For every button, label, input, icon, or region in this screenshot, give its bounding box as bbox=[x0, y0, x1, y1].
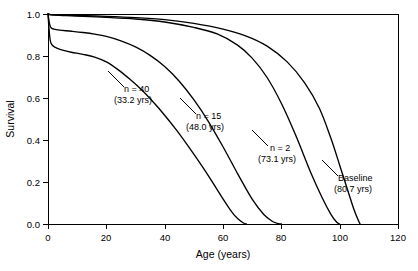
annot-n40-line1: n = 40 bbox=[124, 84, 149, 94]
curve-n15 bbox=[48, 14, 281, 224]
x-axis-title: Age (years) bbox=[196, 248, 250, 260]
x-tick-label-6: 120 bbox=[390, 232, 406, 243]
y-tick-label-2: 0.4 bbox=[27, 135, 40, 146]
x-tick-label-5: 100 bbox=[332, 232, 348, 243]
annot-baseline-line1: Baseline bbox=[338, 173, 373, 183]
annot-baseline: Baseline (80.7 yrs) bbox=[334, 173, 373, 194]
x-axis-ticks bbox=[48, 224, 398, 229]
x-tick-label-0: 0 bbox=[45, 232, 50, 243]
annot-n2-line1: n = 2 bbox=[270, 143, 290, 153]
annot-n2-line2: (73.1 yrs) bbox=[258, 154, 296, 164]
leader-n2 bbox=[252, 130, 268, 146]
annot-n40-line2: (33.2 yrs) bbox=[114, 95, 152, 105]
x-tick-label-2: 40 bbox=[160, 232, 171, 243]
curve-n2 bbox=[48, 14, 340, 224]
y-tick-label-0: 0.0 bbox=[27, 219, 40, 230]
annot-baseline-line2: (80.7 yrs) bbox=[334, 184, 372, 194]
annot-n15-line1: n = 15 bbox=[196, 111, 221, 121]
y-axis-title: Survival bbox=[4, 100, 16, 137]
y-axis-ticks bbox=[43, 14, 48, 224]
survival-curve-figure: 0.0 0.2 0.4 0.6 0.8 1.0 Survival 0 20 40… bbox=[0, 0, 418, 271]
x-tick-label-1: 20 bbox=[101, 232, 112, 243]
x-tick-label-3: 60 bbox=[218, 232, 229, 243]
leader-n40 bbox=[108, 71, 124, 87]
leader-baseline bbox=[322, 160, 338, 176]
annot-n15: n = 15 (48.0 yrs) bbox=[186, 111, 224, 132]
y-tick-label-4: 0.8 bbox=[27, 51, 40, 62]
survival-plot: 0.0 0.2 0.4 0.6 0.8 1.0 Survival 0 20 40… bbox=[0, 0, 418, 271]
y-tick-label-1: 0.2 bbox=[27, 177, 40, 188]
annot-n2: n = 2 (73.1 yrs) bbox=[258, 143, 296, 164]
annot-n15-line2: (48.0 yrs) bbox=[186, 122, 224, 132]
y-tick-label-3: 0.6 bbox=[27, 93, 40, 104]
x-tick-label-4: 80 bbox=[276, 232, 287, 243]
y-tick-label-5: 1.0 bbox=[27, 9, 40, 20]
annot-n40: n = 40 (33.2 yrs) bbox=[114, 84, 152, 105]
